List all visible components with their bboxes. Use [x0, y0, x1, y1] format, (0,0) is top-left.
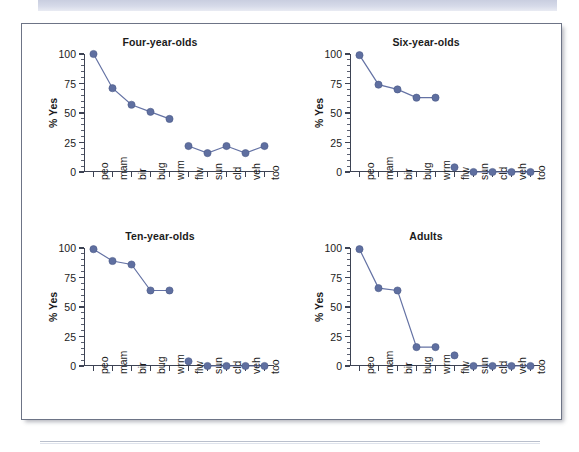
y-tick-label: 50	[64, 301, 76, 313]
x-tick	[169, 366, 170, 371]
x-tick	[454, 172, 455, 177]
y-tick-label: 75	[330, 78, 342, 90]
y-tick-label: 75	[64, 78, 76, 90]
x-tick	[150, 366, 151, 371]
data-point	[223, 362, 230, 369]
chart-panel: Ten-year-olds% Yes0255075100peomambirbug…	[28, 224, 292, 418]
panel-title: Four-year-olds	[28, 36, 292, 48]
data-point	[451, 164, 458, 171]
y-tick-label: 75	[64, 272, 76, 284]
data-point	[242, 150, 249, 157]
y-tick-label: 25	[330, 331, 342, 343]
x-tick	[378, 172, 379, 177]
x-tick	[359, 172, 360, 177]
x-tick	[131, 366, 132, 371]
y-axis-label: % Yes	[47, 292, 59, 322]
panel-title: Six-year-olds	[294, 36, 558, 48]
x-tick	[188, 366, 189, 371]
y-tick-label: 100	[324, 242, 342, 254]
x-tick	[416, 172, 417, 177]
data-point	[242, 362, 249, 369]
data-point	[394, 86, 401, 93]
chart-panel: Four-year-olds% Yes0255075100peomambirbu…	[28, 30, 292, 226]
data-point	[204, 362, 211, 369]
data-series	[84, 54, 274, 172]
data-point	[166, 115, 173, 122]
data-point	[432, 344, 439, 351]
data-point	[527, 362, 534, 369]
data-point	[394, 287, 401, 294]
y-axis-label: % Yes	[47, 98, 59, 128]
data-point	[508, 168, 515, 175]
plot-area: % Yes0255075100peomambirbugwrmflwsuncldv…	[350, 54, 540, 172]
y-tick-label: 0	[70, 166, 76, 178]
y-tick-label: 100	[324, 48, 342, 60]
y-tick-label: 25	[330, 137, 342, 149]
x-tick	[93, 172, 94, 177]
y-axis-label: % Yes	[313, 292, 325, 322]
x-tick	[435, 172, 436, 177]
data-point	[470, 362, 477, 369]
data-point	[527, 168, 534, 175]
y-axis-label: % Yes	[313, 98, 325, 128]
y-tick-label: 100	[58, 242, 76, 254]
data-point	[489, 168, 496, 175]
data-point	[109, 257, 116, 264]
data-point	[413, 94, 420, 101]
data-point	[451, 352, 458, 359]
y-tick-label: 0	[70, 360, 76, 372]
data-point	[128, 261, 135, 268]
x-tick	[454, 366, 455, 371]
data-series	[84, 248, 274, 366]
panel-grid: Four-year-olds% Yes0255075100peomambirbu…	[22, 24, 561, 419]
x-tick	[188, 172, 189, 177]
data-point	[413, 344, 420, 351]
bottom-divider-rule-shadow	[40, 443, 540, 444]
data-point	[128, 101, 135, 108]
x-tick	[378, 366, 379, 371]
x-tick	[93, 366, 94, 371]
data-point	[90, 246, 97, 253]
series-line	[360, 249, 436, 347]
x-tick	[207, 172, 208, 177]
data-series	[350, 248, 540, 366]
y-tick-label: 25	[64, 331, 76, 343]
data-point	[261, 362, 268, 369]
x-tick	[131, 172, 132, 177]
data-point	[204, 150, 211, 157]
data-point	[508, 362, 515, 369]
x-tick	[359, 366, 360, 371]
x-tick	[435, 366, 436, 371]
y-tick-label: 25	[64, 137, 76, 149]
data-point	[109, 85, 116, 92]
x-tick	[150, 172, 151, 177]
data-point	[223, 142, 230, 149]
data-point	[90, 50, 97, 57]
plot-area: % Yes0255075100peomambirbugwrmflwsuncldv…	[84, 248, 274, 366]
chart-panel: Adults% Yes0255075100peomambirbugwrmflws…	[294, 224, 558, 418]
bottom-divider-rule	[40, 441, 540, 442]
x-tick	[226, 172, 227, 177]
plot-area: % Yes0255075100peomambirbugwrmflwsuncldv…	[350, 248, 540, 366]
x-tick	[112, 172, 113, 177]
data-point	[185, 358, 192, 365]
data-point	[261, 142, 268, 149]
data-point	[166, 287, 173, 294]
y-tick-label: 50	[64, 107, 76, 119]
figure-frame: Four-year-olds% Yes0255075100peomambirbu…	[21, 23, 562, 420]
x-tick	[416, 366, 417, 371]
x-tick	[397, 366, 398, 371]
panel-title: Ten-year-olds	[28, 230, 292, 242]
x-tick	[169, 172, 170, 177]
x-tick	[245, 172, 246, 177]
panel-title: Adults	[294, 230, 558, 242]
series-line	[94, 249, 170, 290]
data-point	[489, 362, 496, 369]
data-point	[356, 52, 363, 59]
data-point	[470, 168, 477, 175]
series-line	[94, 54, 170, 119]
y-tick-label: 0	[336, 360, 342, 372]
top-banner	[38, 0, 557, 11]
y-tick-label: 50	[330, 107, 342, 119]
data-point	[147, 287, 154, 294]
